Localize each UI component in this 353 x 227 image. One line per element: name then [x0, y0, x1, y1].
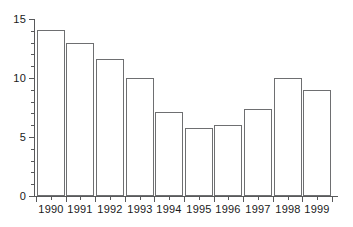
x-tick-major	[66, 197, 67, 202]
plot-area: 051015 199019911992199319941995199619971…	[0, 0, 353, 227]
x-tick-minor	[80, 197, 81, 200]
x-tick-minor	[258, 197, 259, 200]
y-tick-minor	[31, 31, 35, 32]
x-tick-major	[332, 197, 333, 202]
y-tick-minor	[31, 172, 35, 173]
x-tick-label: 1999	[295, 204, 339, 215]
y-tick-minor	[31, 90, 35, 91]
bar-1997	[244, 109, 272, 196]
x-tick-minor	[288, 197, 289, 200]
y-tick-minor	[31, 161, 35, 162]
bar-1993	[126, 78, 154, 196]
y-tick-minor	[31, 43, 35, 44]
bar-chart: 051015 199019911992199319941995199619971…	[0, 0, 353, 227]
bar-1998	[274, 78, 302, 196]
y-tick-minor	[31, 113, 35, 114]
x-tick-minor	[169, 197, 170, 200]
y-tick-minor	[31, 54, 35, 55]
y-tick-minor	[31, 125, 35, 126]
bar-1994	[155, 112, 183, 196]
y-tick-minor	[31, 66, 35, 67]
y-tick-major	[29, 196, 35, 197]
bar-1991	[66, 43, 94, 196]
x-tick-minor	[317, 197, 318, 200]
bar-1990	[37, 30, 65, 196]
y-tick-major	[29, 19, 35, 20]
bar-1995	[185, 128, 213, 196]
x-tick-major	[243, 197, 244, 202]
y-tick-label: 10	[0, 73, 26, 84]
x-tick-major	[302, 197, 303, 202]
y-tick-label: 5	[0, 132, 26, 143]
x-tick-major	[95, 197, 96, 202]
x-tick-minor	[199, 197, 200, 200]
x-tick-minor	[228, 197, 229, 200]
bar-1999	[303, 90, 331, 196]
y-tick-minor	[31, 149, 35, 150]
y-tick-minor	[31, 184, 35, 185]
y-tick-minor	[31, 102, 35, 103]
bar-1996	[214, 125, 242, 196]
y-tick-major	[29, 78, 35, 79]
x-tick-major	[273, 197, 274, 202]
y-axis-line	[34, 19, 35, 197]
y-tick-label: 0	[0, 191, 26, 202]
y-tick-label: 15	[0, 14, 26, 25]
x-tick-major	[36, 197, 37, 202]
x-tick-major	[214, 197, 215, 202]
y-tick-major	[29, 137, 35, 138]
x-tick-major	[184, 197, 185, 202]
x-tick-major	[125, 197, 126, 202]
x-tick-minor	[110, 197, 111, 200]
x-tick-minor	[140, 197, 141, 200]
bar-1992	[96, 59, 124, 196]
x-tick-major	[154, 197, 155, 202]
x-tick-minor	[51, 197, 52, 200]
